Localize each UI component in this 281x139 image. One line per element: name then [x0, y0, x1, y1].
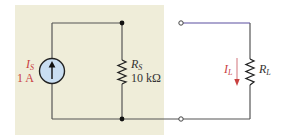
rl-symbol: RL	[259, 63, 271, 79]
load-current-subscript: L	[228, 68, 232, 77]
rs-value: 10 kΩ	[131, 72, 161, 84]
top-terminal	[179, 21, 183, 25]
load-current-symbol: IL	[224, 63, 232, 79]
resistor-rs-icon	[118, 60, 126, 84]
source-current-value: 1 A	[17, 72, 34, 84]
resistor-rl-icon	[246, 59, 254, 85]
junction-dot-top	[120, 21, 125, 26]
load-current-arrow-icon	[234, 58, 239, 86]
rl-symbol-subscript: L	[266, 68, 270, 77]
junction-dot-bottom	[120, 117, 125, 122]
bottom-terminal	[179, 117, 183, 121]
current-source-icon	[40, 59, 65, 84]
